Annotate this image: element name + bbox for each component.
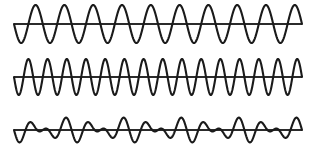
wave-panel-1 [14,5,302,43]
waveform-wave-1 [14,5,302,43]
wave-panel-2 [14,59,302,95]
wave-panel-3 [14,118,302,143]
wave-diagram-canvas [0,0,314,156]
wave-figure [0,0,314,156]
